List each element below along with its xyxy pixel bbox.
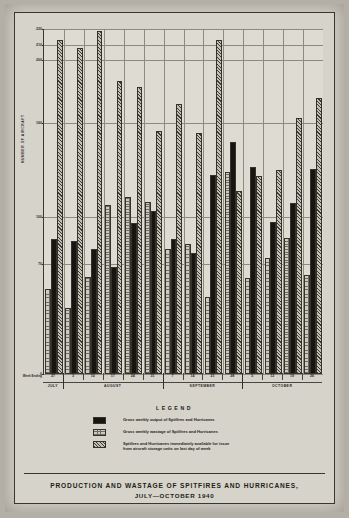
week-bar-group [164, 29, 184, 374]
bar-available [156, 131, 162, 374]
week-bar-group [243, 29, 263, 374]
x-axis-week-label: 7 [172, 374, 174, 378]
chart-area: NUMBER OF AIRCRAFT 070100160200210220 We… [15, 13, 334, 389]
week-bar-group [84, 29, 104, 374]
bar-available [196, 133, 202, 375]
x-axis-week-label: 14 [190, 374, 194, 378]
legend-swatch-available [93, 441, 106, 448]
x-axis-week-label: 3 [72, 374, 74, 378]
x-axis-week-separator [282, 373, 283, 380]
week-ending-label: Week Ending [16, 375, 42, 379]
week-bar-group [263, 29, 283, 374]
week-bar-group [104, 29, 124, 374]
week-bar-group [184, 29, 204, 374]
x-axis-month-rule [163, 382, 243, 383]
legend-title: LEGEND [15, 405, 334, 411]
week-bar-group [124, 29, 144, 374]
x-axis-week-label: 12 [270, 374, 274, 378]
legend-label: Spitfires and Hurricanes immediately ava… [123, 441, 229, 452]
bar-available [316, 98, 322, 374]
x-axis-month-label: OCTOBER [272, 384, 292, 388]
x-axis-month-label: SEPTEMBER [190, 384, 216, 388]
x-axis-month-rule [63, 382, 163, 383]
legend-swatch-wastage [93, 429, 106, 436]
x-axis-week-separator [83, 373, 84, 380]
x-axis-week-label: 31 [151, 374, 155, 378]
bar-available [176, 104, 182, 374]
x-axis-week-separator [103, 373, 104, 380]
bar-available [256, 176, 262, 374]
chart-title: PRODUCTION AND WASTAGE OF SPITFIRES AND … [27, 481, 322, 500]
plot-area: 070100160200210220 [43, 29, 323, 375]
x-axis-week-label: 10 [91, 374, 95, 378]
week-bar-group [283, 29, 303, 374]
bar-available [276, 170, 282, 374]
x-axis-month-separator [242, 373, 243, 389]
bar-available [137, 87, 143, 374]
bar-available [117, 81, 123, 374]
week-bar-group [64, 29, 84, 374]
chart-title-line2: JULY—OCTOBER 1940 [135, 492, 215, 499]
x-axis-month-label: AUGUST [104, 384, 121, 388]
bar-available [77, 48, 83, 374]
week-bar-group [44, 29, 64, 374]
x-axis: Week Ending 2731017243171421285121926JUL… [43, 374, 323, 400]
week-bar-group [203, 29, 223, 374]
week-bar-group [303, 29, 323, 374]
x-axis-week-label: 19 [290, 374, 294, 378]
title-divider [24, 473, 325, 474]
y-axis-title: NUMBER OF AIRCRAFT [21, 93, 25, 163]
legend-label: Gross weekly wastage of Spitfires and Hu… [123, 429, 218, 434]
x-axis-week-separator [183, 373, 184, 380]
x-axis-week-separator [302, 373, 303, 380]
bar-available [296, 118, 302, 374]
bar-available [97, 31, 103, 374]
legend-item: Gross weekly wastage of Spitfires and Hu… [93, 429, 218, 436]
x-axis-week-label: 17 [111, 374, 115, 378]
chart-title-line1: PRODUCTION AND WASTAGE OF SPITFIRES AND … [50, 482, 299, 489]
x-axis-month-rule [242, 382, 322, 383]
page-inner-frame: NUMBER OF AIRCRAFT 070100160200210220 We… [14, 12, 335, 504]
legend-label: Gross weekly output of Spitfires and Hur… [123, 417, 215, 422]
bar-available [216, 40, 222, 374]
bar-available [236, 191, 242, 374]
scanned-page: NUMBER OF AIRCRAFT 070100160200210220 We… [0, 0, 349, 518]
legend-swatch-output [93, 417, 106, 424]
x-axis-week-label: 5 [251, 374, 253, 378]
bar-available [57, 40, 63, 374]
week-bar-group [144, 29, 164, 374]
x-axis-week-separator [202, 373, 203, 380]
week-bar-group [223, 29, 243, 374]
x-axis-week-separator [222, 373, 223, 380]
x-axis-week-label: 21 [210, 374, 214, 378]
x-axis-week-label: 28 [230, 374, 234, 378]
page-sheet: NUMBER OF AIRCRAFT 070100160200210220 We… [5, 4, 344, 512]
legend-item: Spitfires and Hurricanes immediately ava… [93, 441, 229, 452]
x-axis-week-separator [262, 373, 263, 380]
legend: LEGEND Gross weekly output of Spitfires … [15, 405, 334, 411]
x-axis-month-separator [63, 373, 64, 389]
x-axis-week-separator [123, 373, 124, 380]
x-axis-week-separator [143, 373, 144, 380]
x-axis-week-label: 24 [131, 374, 135, 378]
x-axis-month-separator [163, 373, 164, 389]
x-axis-month-label: JULY [48, 384, 58, 388]
x-axis-week-label: 26 [310, 374, 314, 378]
legend-item: Gross weekly output of Spitfires and Hur… [93, 417, 215, 424]
x-axis-week-label: 27 [51, 374, 55, 378]
x-axis-month-rule [43, 382, 63, 383]
